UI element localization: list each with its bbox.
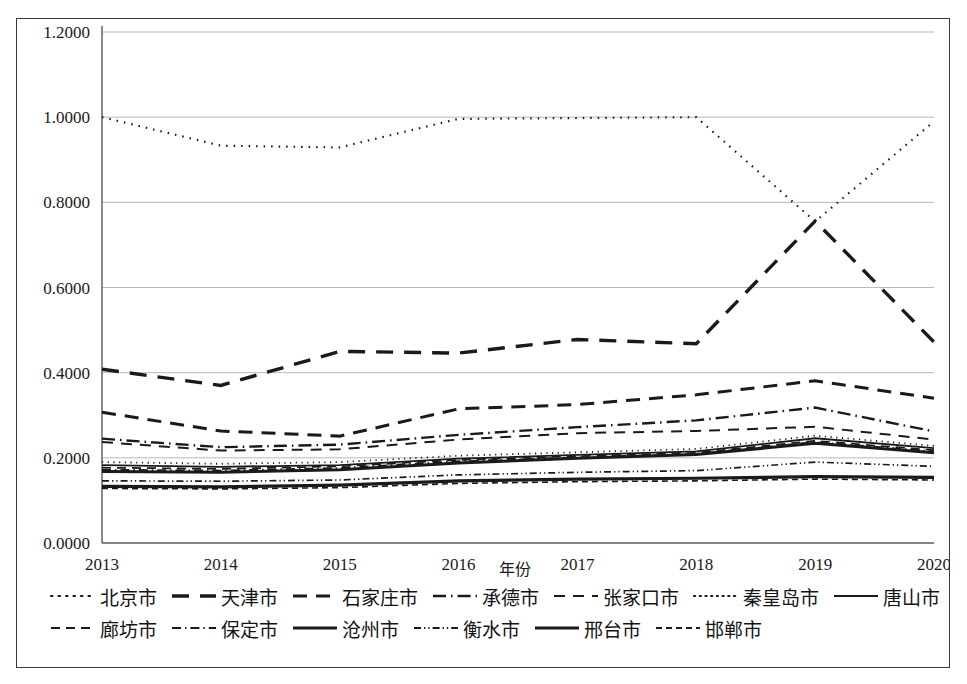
legend-item[interactable]: 天津市: [171, 583, 278, 610]
legend-swatch: [655, 621, 701, 635]
legend-line-sample: [413, 621, 459, 635]
legend-line-sample: [693, 589, 739, 603]
legend-item[interactable]: 廊坊市: [50, 615, 157, 642]
x-tick-label: 2020: [917, 555, 950, 574]
legend-item[interactable]: 邢台市: [534, 615, 641, 642]
legend-line-sample: [833, 589, 879, 603]
chart-figure: 0.00000.20000.40000.60000.80001.00001.20…: [0, 0, 967, 684]
chart-legend: 北京市天津市石家庄市承德市张家口市秦皇岛市唐山市 廊坊市保定市沧州市衡水市邢台市…: [16, 580, 950, 644]
legend-line-sample: [171, 589, 217, 603]
legend-item[interactable]: 衡水市: [413, 615, 520, 642]
legend-line-sample: [50, 621, 96, 635]
x-tick-label: 2018: [679, 555, 713, 574]
legend-item[interactable]: 秦皇岛市: [693, 583, 819, 610]
data-series-group: [102, 117, 934, 489]
gridlines: [102, 26, 934, 543]
x-tick-label: 2015: [323, 555, 357, 574]
legend-label: 秦皇岛市: [743, 583, 819, 610]
legend-label: 唐山市: [883, 583, 940, 610]
legend-item[interactable]: 承德市: [432, 583, 539, 610]
legend-swatch: [292, 621, 338, 635]
y-tick-label: 0.8000: [43, 193, 90, 212]
legend-line-sample: [292, 589, 338, 603]
y-tick-label: 0.2000: [43, 449, 90, 468]
legend-line-sample: [50, 589, 96, 603]
legend-line-sample: [553, 589, 599, 603]
legend-item[interactable]: 张家口市: [553, 583, 679, 610]
legend-item[interactable]: 石家庄市: [292, 583, 418, 610]
legend-swatch: [553, 589, 599, 603]
legend-swatch: [432, 589, 478, 603]
legend-line-sample: [534, 621, 580, 635]
series-line: [102, 221, 934, 385]
x-tick-label: 2019: [798, 555, 832, 574]
legend-item[interactable]: 邯郸市: [655, 615, 762, 642]
y-tick-label: 0.6000: [43, 279, 90, 298]
legend-label: 保定市: [221, 615, 278, 642]
legend-swatch: [534, 621, 580, 635]
legend-line-sample: [292, 621, 338, 635]
x-tick-label: 2013: [85, 555, 119, 574]
legend-row-1: 北京市天津市石家庄市承德市张家口市秦皇岛市唐山市: [50, 580, 916, 612]
x-tick-label: 2017: [560, 555, 595, 574]
legend-swatch: [833, 589, 879, 603]
legend-label: 承德市: [482, 583, 539, 610]
x-tick-label: 2016: [442, 555, 476, 574]
legend-label: 石家庄市: [342, 583, 418, 610]
y-tick-label: 0.4000: [43, 364, 90, 383]
legend-swatch: [50, 621, 96, 635]
y-axis-tick-labels: 0.00000.20000.40000.60000.80001.00001.20…: [43, 23, 90, 553]
series-line: [102, 117, 934, 221]
legend-item[interactable]: 沧州市: [292, 615, 399, 642]
legend-item[interactable]: 北京市: [50, 583, 157, 610]
legend-line-sample: [171, 621, 217, 635]
legend-label: 邢台市: [584, 615, 641, 642]
legend-line-sample: [432, 589, 478, 603]
y-tick-label: 1.0000: [43, 108, 90, 127]
x-tick-label: 2014: [204, 555, 239, 574]
legend-label: 北京市: [100, 583, 157, 610]
legend-swatch: [171, 621, 217, 635]
legend-swatch: [693, 589, 739, 603]
legend-item[interactable]: 唐山市: [833, 583, 940, 610]
plot-area: 0.00000.20000.40000.60000.80001.00001.20…: [16, 18, 950, 668]
legend-row-2: 廊坊市保定市沧州市衡水市邢台市邯郸市: [50, 612, 916, 644]
legend-label: 廊坊市: [100, 615, 157, 642]
y-tick-label: 0.0000: [43, 534, 90, 553]
y-tick-label: 1.2000: [43, 23, 90, 42]
legend-swatch: [413, 621, 459, 635]
legend-label: 衡水市: [463, 615, 520, 642]
legend-label: 沧州市: [342, 615, 399, 642]
legend-swatch: [292, 589, 338, 603]
legend-swatch: [171, 589, 217, 603]
line-chart-svg: 0.00000.20000.40000.60000.80001.00001.20…: [16, 18, 950, 668]
legend-label: 邯郸市: [705, 615, 762, 642]
legend-label: 天津市: [221, 583, 278, 610]
series-line: [102, 477, 934, 487]
legend-label: 张家口市: [603, 583, 679, 610]
legend-swatch: [50, 589, 96, 603]
x-axis-title: 年份: [499, 561, 531, 578]
legend-line-sample: [655, 621, 701, 635]
legend-item[interactable]: 保定市: [171, 615, 278, 642]
